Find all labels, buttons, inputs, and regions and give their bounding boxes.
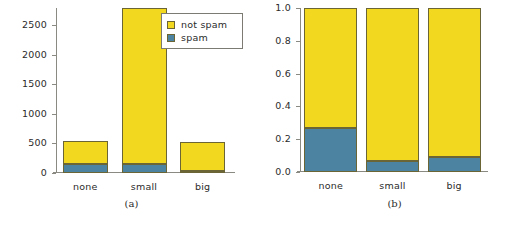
chart-panel-b: 0.00.20.40.60.81.0 nonesmallbig (b) [263,0,526,228]
y-tick-label: 500 [7,137,47,148]
y-tick-label: 1.0 [251,2,291,13]
legend-item-spam: spam [167,31,234,44]
bar-segment-spam [304,128,357,172]
y-tick-mark [52,55,56,56]
spam-filter-figure: 05001000150020002500 nonesmallbig not sp… [0,0,526,228]
y-tick-mark [52,143,56,144]
y-axis-line-b [300,8,301,172]
y-tick-mark [296,139,300,140]
plot-area-b: 0.00.20.40.60.81.0 [300,8,485,172]
y-axis-line-a [56,8,57,173]
legend-label-spam: spam [181,32,208,43]
chart-legend: not spam spam [161,13,243,49]
y-tick-label: 0.8 [251,35,291,46]
y-tick-mark [296,41,300,42]
x-category-label: big [163,181,243,192]
y-tick-mark [296,74,300,75]
bar-segment-spam [63,164,108,173]
legend-swatch-spam-icon [167,34,175,42]
panel-caption-b: (b) [263,198,526,209]
bar-segment-spam [122,164,167,173]
bar-segment-spam [180,171,225,173]
stacked-bar [366,8,419,172]
y-tick-mark [52,25,56,26]
y-tick-mark [52,173,56,174]
bar-segment-spam [428,157,481,172]
bar-segment-not-spam [122,8,167,164]
x-category-label: big [414,180,494,191]
chart-panel-a: 05001000150020002500 nonesmallbig not sp… [0,0,263,228]
y-tick-label: 2500 [7,19,47,30]
y-tick-mark [52,114,56,115]
bar-segment-not-spam [180,142,225,171]
y-tick-label: 0 [7,167,47,178]
y-tick-label: 1000 [7,108,47,119]
y-tick-label: 0.6 [251,68,291,79]
bar-segment-not-spam [366,8,419,161]
y-tick-label: 1500 [7,78,47,89]
stacked-bar [63,8,108,173]
y-tick-label: 0.4 [251,100,291,111]
legend-swatch-not-spam-icon [167,21,175,29]
stacked-bar [428,8,481,172]
bar-segment-not-spam [63,141,108,164]
y-tick-mark [296,106,300,107]
y-tick-mark [52,84,56,85]
bar-segment-spam [366,161,419,172]
bar-segment-not-spam [428,8,481,157]
bar-segment-not-spam [304,8,357,128]
y-tick-label: 0.2 [251,133,291,144]
panel-caption-a: (a) [0,198,263,209]
y-tick-mark [296,8,300,9]
stacked-bar [304,8,357,172]
y-tick-label: 0.0 [251,166,291,177]
legend-label-not-spam: not spam [181,19,227,30]
legend-item-not-spam: not spam [167,18,234,31]
y-tick-label: 2000 [7,49,47,60]
y-tick-mark [296,172,300,173]
stacked-bar [122,8,167,173]
